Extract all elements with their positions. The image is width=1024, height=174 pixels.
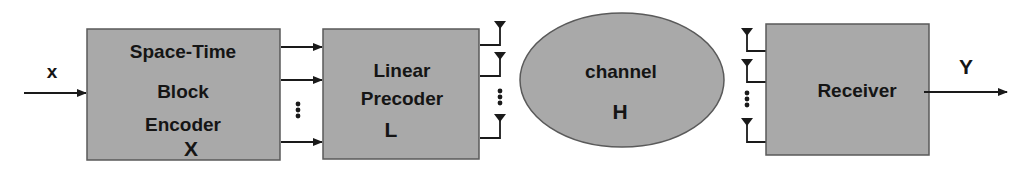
encoder-symbol: X: [184, 137, 198, 160]
input-label: x: [47, 61, 58, 82]
linear-precoder: Linear Precoder L: [323, 29, 479, 159]
channel-symbol: H: [612, 100, 627, 123]
encoder-outputs: [281, 47, 322, 142]
antenna-icon: [480, 21, 506, 45]
encoder-name: Encoder: [145, 114, 222, 135]
channel: channel H: [520, 13, 724, 147]
receiver: Receiver: [766, 24, 929, 155]
encoder-title: Space-Time: [130, 41, 236, 62]
antenna-icon: [741, 28, 766, 51]
space-time-block-encoder: Space-Time Block Encoder X: [87, 29, 280, 160]
output-signal: Y: [924, 55, 1007, 92]
receiver-label: Receiver: [817, 80, 897, 101]
channel-title: channel: [585, 61, 657, 82]
antenna-icon: [741, 59, 766, 82]
antenna-icon: [480, 114, 506, 138]
precoder-symbol: L: [385, 118, 398, 141]
transmit-antennas: [480, 21, 506, 138]
vertical-ellipsis-icon: [296, 102, 301, 119]
precoder-subtitle: Precoder: [361, 88, 444, 109]
vertical-ellipsis-icon: [498, 89, 503, 106]
receive-antennas: [741, 28, 766, 142]
output-label: Y: [959, 55, 973, 78]
mimo-system-diagram: x Space-Time Block Encoder X Linear Prec…: [0, 0, 1024, 174]
input-signal: x: [24, 61, 86, 93]
precoder-title: Linear: [373, 60, 431, 81]
encoder-subtitle: Block: [157, 81, 209, 102]
vertical-ellipsis-icon: [745, 91, 750, 108]
antenna-icon: [741, 118, 766, 142]
antenna-icon: [480, 52, 506, 76]
